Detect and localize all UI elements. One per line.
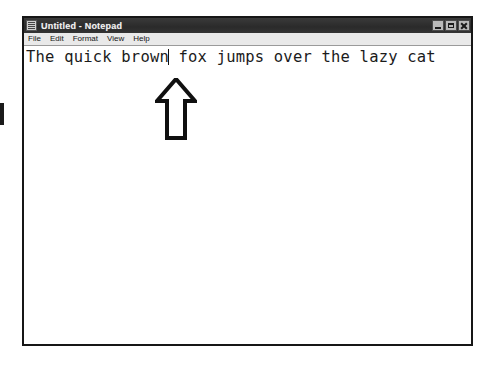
maximize-icon	[446, 21, 456, 30]
menu-item-format[interactable]: Format	[73, 33, 103, 45]
text-editing-area[interactable]: The quick brown fox jumps over the lazy …	[24, 46, 471, 344]
up-arrow-annotation-icon	[155, 78, 197, 140]
close-icon	[459, 21, 469, 30]
notepad-window: Untitled - Notepad File Edit Format View…	[22, 16, 473, 346]
menu-item-help[interactable]: Help	[133, 33, 154, 45]
notepad-document-icon	[26, 20, 37, 31]
window-title: Untitled - Notepad	[41, 21, 122, 31]
menu-item-file[interactable]: File	[28, 33, 46, 45]
window-titlebar[interactable]: Untitled - Notepad	[24, 18, 471, 33]
close-button[interactable]	[458, 20, 470, 31]
minimize-button[interactable]	[432, 20, 444, 31]
window-controls	[432, 20, 470, 31]
document-text-line: The quick brown fox jumps over the lazy …	[26, 48, 436, 67]
maximize-button[interactable]	[445, 20, 457, 31]
menu-item-edit[interactable]: Edit	[50, 33, 69, 45]
minimize-icon	[433, 21, 443, 30]
scan-artifact-mark	[0, 103, 4, 125]
menu-bar: File Edit Format View Help	[24, 33, 471, 46]
menu-item-view[interactable]: View	[107, 33, 129, 45]
screenshot-root: Untitled - Notepad File Edit Format View…	[0, 0, 493, 368]
text-after-caret: fox jumps over the lazy cat	[169, 48, 436, 66]
text-before-caret: The quick brown	[26, 48, 169, 66]
